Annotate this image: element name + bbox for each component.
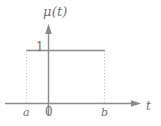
x-tick-label-b: b [101, 107, 108, 118]
origin-label: 0 [45, 106, 53, 118]
amplitude-tick-label: 1 [36, 41, 44, 53]
x-axis-label: t [146, 100, 151, 112]
y-axis-arrowhead [45, 24, 52, 34]
x-axis-arrowhead [131, 100, 141, 107]
y-axis-label: μ(t) [43, 5, 68, 18]
x-tick-label-a: a [23, 107, 30, 118]
function-plot-figure: μ(t) 1 a 0 b t [0, 0, 161, 126]
